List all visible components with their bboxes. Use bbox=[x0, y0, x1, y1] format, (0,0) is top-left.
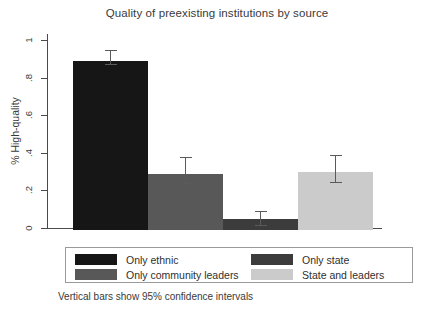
error-bar-cap-bottom bbox=[255, 225, 267, 226]
error-bar-cap-top bbox=[330, 155, 342, 156]
error-bar-cap-bottom bbox=[105, 64, 117, 65]
error-bar bbox=[255, 211, 267, 226]
error-bar-cap-top bbox=[180, 157, 192, 158]
legend-swatch-icon bbox=[75, 269, 117, 280]
y-tick-label: 0 bbox=[23, 218, 35, 238]
legend-item-label: State and leaders bbox=[302, 269, 384, 281]
error-bar-cap-bottom bbox=[330, 182, 342, 183]
error-bar bbox=[180, 157, 192, 184]
y-axis-title: % High-quality bbox=[9, 71, 21, 191]
legend-swatch-icon bbox=[75, 254, 117, 265]
legend-swatch-icon bbox=[251, 269, 293, 280]
legend-item-label: Only state bbox=[302, 254, 349, 266]
error-bar-stem bbox=[110, 50, 111, 65]
plot-area bbox=[47, 34, 382, 230]
y-tick-label: .8 bbox=[23, 68, 35, 88]
legend-item-label: Only ethnic bbox=[126, 254, 179, 266]
chart-footnote: Vertical bars show 95% confidence interv… bbox=[58, 291, 253, 302]
legend-item-2: Only community leaders bbox=[75, 268, 239, 281]
legend-swatch-icon bbox=[251, 254, 293, 265]
error-bar-stem bbox=[185, 157, 186, 184]
chart-figure: Quality of preexisting institutions by s… bbox=[0, 0, 434, 314]
chart-title: Quality of preexisting institutions by s… bbox=[0, 7, 434, 19]
error-bar-stem bbox=[260, 211, 261, 226]
error-bar-cap-bottom bbox=[180, 183, 192, 184]
chart-legend: Only ethnic Only state Only community le… bbox=[65, 247, 413, 283]
legend-item-label: Only community leaders bbox=[126, 269, 239, 281]
bar bbox=[73, 61, 148, 230]
legend-item-1: Only state bbox=[251, 253, 349, 266]
y-tick-label: .4 bbox=[23, 143, 35, 163]
legend-item-3: State and leaders bbox=[251, 268, 384, 281]
error-bar bbox=[105, 50, 117, 65]
error-bar-cap-top bbox=[255, 211, 267, 212]
error-bar bbox=[330, 155, 342, 183]
y-tick-label: .6 bbox=[23, 105, 35, 125]
legend-item-0: Only ethnic bbox=[75, 253, 179, 266]
error-bar-cap-top bbox=[105, 50, 117, 51]
y-tick-label: .2 bbox=[23, 180, 35, 200]
error-bar-stem bbox=[335, 155, 336, 183]
y-tick-label: 1 bbox=[23, 30, 35, 50]
